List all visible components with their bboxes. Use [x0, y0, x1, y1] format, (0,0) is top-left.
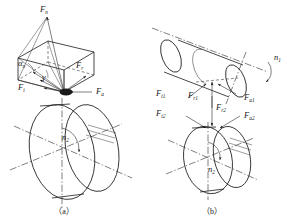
label-wheel-tangential: Ft2: [155, 108, 166, 119]
subfigure-b: Ft1 Fr1 Fa1 Ft2 Fr2 Fa2 n1 n2 （b）: [152, 28, 281, 216]
worm-gear-force-diagram: Fn Fr Ft Fa αn γ n2 （a）: [0, 0, 299, 220]
label-tangential-force: Ft: [17, 82, 25, 93]
label-normal-force: Fn: [39, 4, 48, 15]
force-vectors-wheel: [186, 116, 240, 128]
worm-cylinder: [152, 28, 268, 104]
diagram-canvas: Fn Fr Ft Fa αn γ n2 （a）: [0, 0, 299, 220]
caption-a: （a）: [54, 207, 74, 216]
label-lead-angle: γ: [42, 72, 46, 82]
force-vectors-a: [18, 17, 92, 95]
label-worm-tangential: Ft1: [155, 88, 166, 99]
label-wheel-axial: Fa2: [243, 110, 255, 121]
caption-b: （b）: [202, 207, 222, 216]
worm-rotation-arrow: [266, 62, 271, 82]
worm-wheel-a: [10, 98, 132, 208]
label-wheel-speed-a: n2: [62, 132, 69, 143]
worm-wheel-b: [166, 122, 258, 200]
label-radial-force: Fr: [75, 60, 84, 71]
label-worm-axial: Fa1: [243, 92, 255, 103]
label-wheel-speed-b: n2: [208, 164, 215, 175]
label-wheel-radial: Fr2: [215, 102, 226, 113]
label-worm-speed: n1: [274, 52, 281, 63]
subfigure-a: Fn Fr Ft Fa αn γ n2 （a）: [10, 4, 132, 216]
label-axial-force: Fa: [95, 86, 104, 97]
